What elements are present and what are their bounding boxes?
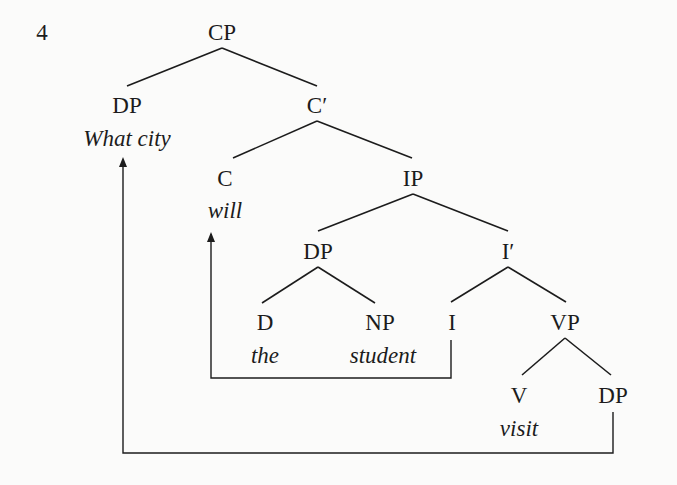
- tree-branch: [508, 267, 566, 302]
- node-cp: CP: [208, 21, 236, 44]
- arrowhead-icon: [119, 157, 127, 167]
- node-v: V: [511, 384, 528, 407]
- terminal-dp-spec: What city: [83, 127, 171, 150]
- node-i-bar: I′: [502, 240, 515, 263]
- tree-branch: [565, 338, 611, 375]
- tree-branch: [413, 194, 508, 231]
- node-d: D: [257, 311, 274, 334]
- node-c-bar: C′: [307, 94, 327, 117]
- node-c: C: [217, 167, 232, 190]
- terminal-v: visit: [500, 417, 538, 440]
- tree-branch: [451, 267, 508, 302]
- tree-branch: [222, 48, 317, 86]
- arrowhead-icon: [207, 232, 215, 242]
- node-np: NP: [365, 311, 394, 334]
- tree-branch: [262, 267, 318, 303]
- dp-to-spec-cp-movement: [123, 160, 613, 453]
- tree-branch: [233, 121, 317, 158]
- tree-branch: [317, 121, 412, 158]
- node-dp-subj: DP: [303, 240, 332, 263]
- tree-branch: [127, 48, 222, 86]
- node-dp-spec: DP: [112, 94, 141, 117]
- node-ip: IP: [403, 167, 423, 190]
- example-number: 4: [36, 21, 48, 44]
- tree-diagram: [0, 0, 677, 485]
- terminal-c: will: [208, 199, 243, 222]
- node-vp: VP: [550, 311, 579, 334]
- node-i: I: [448, 311, 456, 334]
- terminal-np: student: [350, 344, 416, 367]
- terminal-d: the: [251, 344, 279, 367]
- node-dp-obj: DP: [598, 384, 627, 407]
- tree-branch: [318, 194, 413, 231]
- tree-branch: [522, 338, 565, 375]
- tree-branch: [318, 267, 375, 303]
